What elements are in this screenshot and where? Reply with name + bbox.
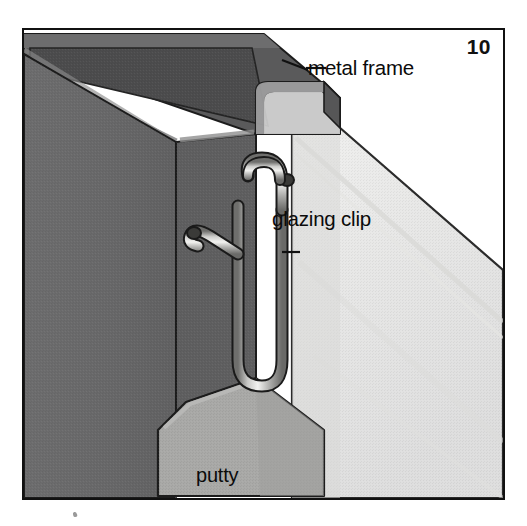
figure-canvas: 10 metal frame glazing clip putty — [0, 0, 527, 526]
callout-label-metal-frame: metal frame — [308, 58, 414, 79]
figure-number: 10 — [467, 36, 491, 57]
figure-border: 10 — [22, 28, 505, 500]
callout-label-glazing-clip: glazing clip — [272, 209, 371, 230]
glazing-detail-illustration — [24, 30, 503, 498]
callout-label-putty: putty — [196, 465, 238, 485]
page-speck — [72, 512, 77, 518]
